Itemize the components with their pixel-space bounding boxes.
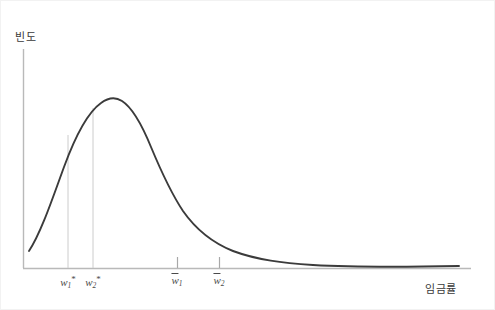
tick-label-wbar2: w2 (213, 274, 224, 288)
tick-label-w2-star: w2* (85, 274, 101, 290)
tick-label-wbar1: w1 (171, 274, 182, 288)
distribution-chart-canvas (1, 1, 495, 310)
tick-superscript: * (96, 274, 101, 284)
x-axis-label: 임금률 (425, 280, 457, 296)
y-axis-label: 빈도 (15, 28, 36, 44)
tick-subscript: 2 (221, 279, 225, 288)
tick-base-overbar: w (171, 274, 178, 286)
figure-container: 빈도 임금률 w1* w2* w1 w2 (0, 0, 495, 310)
tick-subscript: 1 (179, 279, 183, 288)
tick-base-overbar: w (213, 274, 220, 286)
tick-superscript: * (71, 274, 76, 284)
tick-label-w1-star: w1* (60, 274, 76, 290)
